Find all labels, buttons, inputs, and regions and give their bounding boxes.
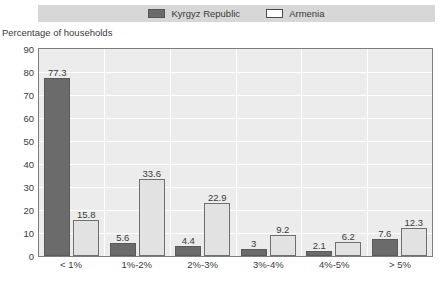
bar-armenia-2-3[interactable]: 22.9 bbox=[204, 203, 230, 256]
y-axis-tick-label: 90 bbox=[23, 44, 34, 55]
bar-value-label: 33.6 bbox=[143, 168, 162, 179]
y-axis-tick-label: 20 bbox=[23, 205, 34, 216]
bar-armenia-3-4[interactable]: 9.2 bbox=[270, 235, 296, 256]
y-axis-tick-label: 80 bbox=[23, 67, 34, 78]
legend-item-armenia: Armenia bbox=[266, 9, 324, 19]
bar-plot-area: 77.315.85.633.64.422.939.22.16.27.612.3 bbox=[39, 49, 432, 256]
y-axis-title: Percentage of households bbox=[2, 27, 112, 38]
bar-group-5: 7.612.3 bbox=[367, 49, 433, 256]
y-axis-tick-label: 30 bbox=[23, 182, 34, 193]
bar-group-1: 77.315.8 bbox=[39, 49, 105, 256]
bar-group-3-4: 39.2 bbox=[236, 49, 302, 256]
bar-kyrgyz-republic-1[interactable]: 77.3 bbox=[44, 78, 70, 256]
bar-group-2-3: 4.422.9 bbox=[170, 49, 236, 256]
y-axis-tick-label: 70 bbox=[23, 90, 34, 101]
bar-value-label: 2.1 bbox=[313, 240, 326, 251]
x-axis-tick-label: 1%-2% bbox=[104, 259, 170, 270]
x-axis-tick-label: 3%-4% bbox=[235, 259, 301, 270]
bar-value-label: 3 bbox=[251, 238, 256, 249]
x-axis-ticks: < 1%1%-2%2%-3%3%-4%4%-5%> 5% bbox=[38, 259, 433, 270]
y-axis-tick-label: 60 bbox=[23, 113, 34, 124]
bar-value-label: 9.2 bbox=[276, 224, 289, 235]
bar-kyrgyz-republic-4-5[interactable]: 2.1 bbox=[306, 251, 332, 256]
x-axis-tick-label: 2%-3% bbox=[170, 259, 236, 270]
bar-value-label: 5.6 bbox=[116, 232, 129, 243]
bar-kyrgyz-republic-3-4[interactable]: 3 bbox=[241, 249, 267, 256]
legend-item-kyrgyz-republic: Kyrgyz Republic bbox=[148, 9, 240, 19]
bar-group-4-5: 2.16.2 bbox=[301, 49, 367, 256]
bar-armenia-4-5[interactable]: 6.2 bbox=[335, 242, 361, 256]
bar-value-label: 6.2 bbox=[342, 231, 355, 242]
y-axis-tick-label: 10 bbox=[23, 228, 34, 239]
legend-label: Armenia bbox=[289, 9, 324, 19]
bar-value-label: 15.8 bbox=[77, 209, 96, 220]
x-axis-tick-label: < 1% bbox=[38, 259, 104, 270]
bar-value-label: 22.9 bbox=[208, 192, 227, 203]
legend-swatch-icon bbox=[148, 9, 165, 18]
chart-legend: Kyrgyz Republic Armenia bbox=[38, 5, 435, 22]
bar-armenia-1-2[interactable]: 33.6 bbox=[139, 179, 165, 256]
x-axis-tick-label: 4%-5% bbox=[301, 259, 367, 270]
y-axis-tick-label: 40 bbox=[23, 159, 34, 170]
bar-kyrgyz-republic-5[interactable]: 7.6 bbox=[372, 239, 398, 256]
legend-label: Kyrgyz Republic bbox=[171, 9, 240, 19]
x-axis-tick-label: > 5% bbox=[367, 259, 433, 270]
bar-kyrgyz-republic-1-2[interactable]: 5.6 bbox=[110, 243, 136, 256]
y-axis-tick-label: 50 bbox=[23, 136, 34, 147]
bar-value-label: 4.4 bbox=[182, 235, 195, 246]
bar-value-label: 7.6 bbox=[378, 228, 391, 239]
legend-swatch-icon bbox=[266, 9, 283, 18]
bar-value-label: 12.3 bbox=[405, 217, 424, 228]
bar-value-label: 77.3 bbox=[48, 67, 67, 78]
bar-kyrgyz-republic-2-3[interactable]: 4.4 bbox=[175, 246, 201, 256]
y-axis-tick-label: 0 bbox=[29, 251, 34, 262]
bar-group-1-2: 5.633.6 bbox=[105, 49, 171, 256]
chart-plot-frame: 9080706050403020100 77.315.85.633.64.422… bbox=[38, 48, 433, 257]
bar-armenia-5[interactable]: 12.3 bbox=[401, 228, 427, 256]
bar-armenia-1[interactable]: 15.8 bbox=[73, 220, 99, 256]
